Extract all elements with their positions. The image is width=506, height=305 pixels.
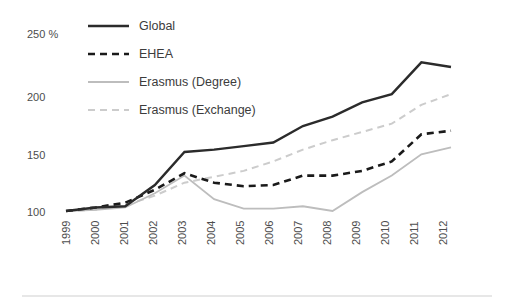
series-line-global bbox=[66, 62, 451, 211]
chart-legend: Global EHEA Erasmus (Degree) Erasmus (Ex… bbox=[88, 19, 256, 117]
legend-label-ehea: EHEA bbox=[139, 47, 174, 61]
chart-container: 250 % 200 150 100 1999 2000 2001 2002 20… bbox=[0, 0, 506, 305]
y-axis-tick-labels: 250 % 200 150 100 bbox=[27, 28, 58, 218]
xtick-label-2011: 2011 bbox=[408, 221, 420, 245]
xtick-label-2004: 2004 bbox=[205, 221, 217, 245]
xtick-label-2001: 2001 bbox=[118, 221, 130, 245]
xtick-label-2007: 2007 bbox=[292, 221, 304, 245]
xtick-label-2010: 2010 bbox=[379, 221, 391, 245]
series-line-erasmus-degree bbox=[66, 147, 451, 211]
legend-label-global: Global bbox=[139, 19, 175, 33]
xtick-label-2000: 2000 bbox=[89, 221, 101, 245]
series-line-erasmus-exchange bbox=[66, 94, 451, 211]
x-axis-tick-labels: 1999 2000 2001 2002 2003 2004 2005 2006 … bbox=[60, 221, 449, 245]
xtick-label-2008: 2008 bbox=[321, 221, 333, 245]
legend-label-erasmus-degree: Erasmus (Degree) bbox=[139, 75, 241, 89]
plot-area bbox=[66, 62, 451, 211]
ytick-label-200: 200 bbox=[27, 91, 45, 103]
xtick-label-2012: 2012 bbox=[437, 221, 449, 245]
xtick-label-2009: 2009 bbox=[350, 221, 362, 245]
xtick-label-2005: 2005 bbox=[234, 221, 246, 245]
series-line-ehea bbox=[66, 131, 451, 211]
line-chart: 250 % 200 150 100 1999 2000 2001 2002 20… bbox=[0, 0, 506, 305]
xtick-label-2006: 2006 bbox=[263, 221, 275, 245]
ytick-label-100: 100 bbox=[27, 206, 45, 218]
xtick-label-1999: 1999 bbox=[60, 221, 72, 245]
xtick-label-2002: 2002 bbox=[147, 221, 159, 245]
ytick-label-250: 250 % bbox=[27, 28, 58, 40]
legend-label-erasmus-exchange: Erasmus (Exchange) bbox=[139, 103, 256, 117]
xtick-label-2003: 2003 bbox=[176, 221, 188, 245]
ytick-label-150: 150 bbox=[27, 149, 45, 161]
